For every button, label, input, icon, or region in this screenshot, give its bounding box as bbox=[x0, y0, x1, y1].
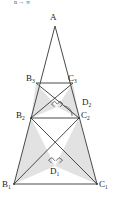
label-b3: B3 bbox=[26, 74, 35, 83]
label-d1: D1 bbox=[50, 167, 59, 176]
dot-c1 bbox=[96, 183, 98, 185]
upper-right-shade bbox=[57, 83, 79, 118]
label-d2: D2 bbox=[82, 98, 91, 107]
label-c2: C2 bbox=[81, 111, 90, 120]
dot-b1 bbox=[13, 183, 15, 185]
label-b2: B2 bbox=[16, 111, 25, 120]
label-c1: C1 bbox=[99, 180, 108, 189]
dot-b2 bbox=[30, 117, 32, 119]
upper-left-shade bbox=[31, 83, 57, 118]
geometry-figure: n → ∞ bbox=[0, 0, 113, 201]
lower-right-shade bbox=[55, 118, 97, 184]
label-a: A bbox=[50, 13, 57, 22]
label-b1: B1 bbox=[2, 180, 11, 189]
dot-c2 bbox=[78, 117, 80, 119]
label-c3: C3 bbox=[68, 74, 77, 83]
lower-left-shade bbox=[14, 118, 55, 184]
